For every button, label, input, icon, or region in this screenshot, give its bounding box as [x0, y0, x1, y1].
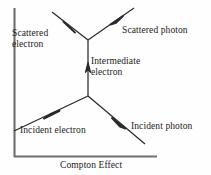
label-incident-electron: Incident electron — [20, 125, 86, 136]
label-scattered-photon: Scattered photon — [122, 25, 188, 36]
incident-photon-line — [88, 96, 145, 144]
label-intermediate-electron: Intermediate electron — [91, 56, 163, 78]
incident-electron-arrow — [44, 111, 60, 119]
scattered-electron-arrow — [64, 22, 76, 33]
diagram-caption: Compton Effect — [60, 160, 122, 171]
incident-photon-arrow — [112, 118, 126, 129]
label-scattered-electron: Scattered electron — [12, 28, 64, 50]
label-intermediate-line1: Intermediate — [91, 56, 140, 66]
label-scattered-electron-line1: Scattered — [12, 28, 48, 38]
compton-effect-diagram: Scattered electron Scattered photon Inte… — [0, 0, 211, 175]
scattered-photon-arrow — [111, 16, 124, 25]
label-intermediate-line2: electron — [91, 67, 122, 77]
label-incident-photon: Incident photon — [131, 121, 192, 132]
label-scattered-electron-line2: electron — [12, 39, 43, 49]
